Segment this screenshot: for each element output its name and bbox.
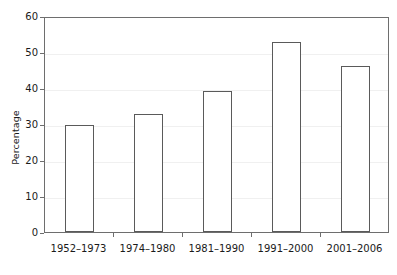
y-axis-tick-label: 0 [16,228,38,238]
bar [65,125,94,232]
bar [134,114,163,232]
x-axis-tick-mark [320,233,321,237]
x-axis-tick-label: 2001–2006 [327,243,383,255]
x-axis-tick-label: 1952–1973 [51,243,107,255]
y-axis-tick-label: 10 [16,192,38,202]
y-axis-tick-label: 40 [16,84,38,94]
plot-inner [45,18,388,232]
y-axis-tick-label: 20 [16,156,38,166]
bar [272,42,301,232]
bar [203,91,232,232]
x-axis-tick-labels: 1952–19731974–19801981–19901991–20002001… [44,243,389,259]
x-axis-tick-label: 1981–1990 [189,243,245,255]
x-axis-tick-label: 1974–1980 [120,243,176,255]
y-axis-tick-label: 60 [16,12,38,22]
y-axis-tick-labels: 0102030405060 [16,0,38,275]
y-axis-tick-mark [40,233,44,234]
x-axis-tick-mark [182,233,183,237]
bar [341,66,370,232]
plot-area [44,17,389,233]
x-axis-tick-label: 1991–2000 [258,243,314,255]
gridline [45,54,388,55]
bar-chart: Percentage 0102030405060 1952–19731974–1… [0,0,397,275]
y-axis-tick-label: 50 [16,48,38,58]
y-axis-tick-label: 30 [16,120,38,130]
x-axis-tick-mark [251,233,252,237]
x-axis-tick-mark [113,233,114,237]
